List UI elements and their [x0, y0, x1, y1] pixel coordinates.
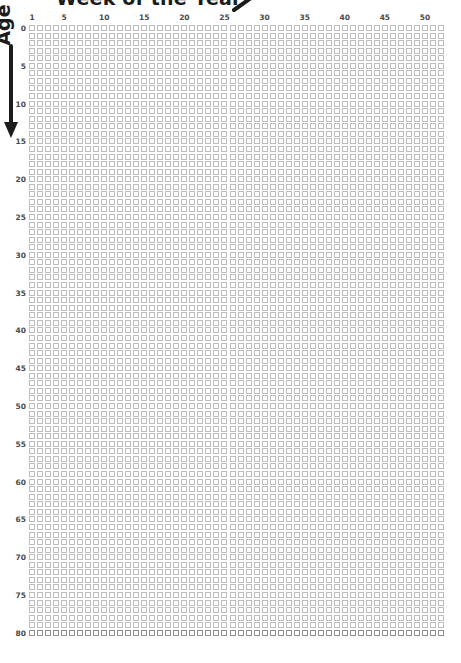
week-cell[interactable] — [77, 403, 83, 409]
week-cell[interactable] — [262, 524, 268, 530]
week-cell[interactable] — [29, 229, 35, 235]
week-cell[interactable] — [85, 532, 91, 538]
week-cell[interactable] — [221, 85, 227, 91]
week-cell[interactable] — [77, 101, 83, 107]
week-cell[interactable] — [221, 433, 227, 439]
week-cell[interactable] — [141, 78, 147, 84]
week-cell[interactable] — [270, 320, 276, 326]
week-cell[interactable] — [430, 501, 436, 507]
week-cell[interactable] — [294, 584, 300, 590]
week-cell[interactable] — [398, 169, 404, 175]
week-cell[interactable] — [53, 335, 59, 341]
week-cell[interactable] — [286, 479, 292, 485]
week-cell[interactable] — [310, 358, 316, 364]
week-cell[interactable] — [157, 85, 163, 91]
week-cell[interactable] — [406, 373, 412, 379]
week-cell[interactable] — [117, 479, 123, 485]
week-cell[interactable] — [342, 305, 348, 311]
week-cell[interactable] — [286, 290, 292, 296]
week-cell[interactable] — [125, 131, 131, 137]
week-cell[interactable] — [93, 123, 99, 129]
week-cell[interactable] — [294, 290, 300, 296]
week-cell[interactable] — [278, 335, 284, 341]
week-cell[interactable] — [238, 380, 244, 386]
week-cell[interactable] — [238, 320, 244, 326]
week-cell[interactable] — [213, 615, 219, 621]
week-cell[interactable] — [238, 131, 244, 137]
week-cell[interactable] — [374, 25, 380, 31]
week-cell[interactable] — [294, 539, 300, 545]
week-cell[interactable] — [398, 93, 404, 99]
week-cell[interactable] — [246, 569, 252, 575]
week-cell[interactable] — [149, 138, 155, 144]
week-cell[interactable] — [390, 101, 396, 107]
week-cell[interactable] — [109, 78, 115, 84]
week-cell[interactable] — [109, 48, 115, 54]
week-cell[interactable] — [334, 131, 340, 137]
week-cell[interactable] — [230, 388, 236, 394]
week-cell[interactable] — [294, 380, 300, 386]
week-cell[interactable] — [326, 479, 332, 485]
week-cell[interactable] — [422, 108, 428, 114]
week-cell[interactable] — [406, 350, 412, 356]
week-cell[interactable] — [398, 463, 404, 469]
week-cell[interactable] — [318, 501, 324, 507]
week-cell[interactable] — [230, 403, 236, 409]
week-cell[interactable] — [422, 229, 428, 235]
week-cell[interactable] — [318, 63, 324, 69]
week-cell[interactable] — [318, 441, 324, 447]
week-cell[interactable] — [254, 78, 260, 84]
week-cell[interactable] — [342, 350, 348, 356]
week-cell[interactable] — [382, 297, 388, 303]
week-cell[interactable] — [278, 501, 284, 507]
week-cell[interactable] — [422, 335, 428, 341]
week-cell[interactable] — [294, 441, 300, 447]
week-cell[interactable] — [53, 274, 59, 280]
week-cell[interactable] — [326, 78, 332, 84]
week-cell[interactable] — [406, 63, 412, 69]
week-cell[interactable] — [390, 320, 396, 326]
week-cell[interactable] — [254, 501, 260, 507]
week-cell[interactable] — [382, 615, 388, 621]
week-cell[interactable] — [197, 471, 203, 477]
week-cell[interactable] — [45, 123, 51, 129]
week-cell[interactable] — [422, 123, 428, 129]
week-cell[interactable] — [262, 297, 268, 303]
week-cell[interactable] — [85, 108, 91, 114]
week-cell[interactable] — [181, 380, 187, 386]
week-cell[interactable] — [286, 350, 292, 356]
week-cell[interactable] — [278, 93, 284, 99]
week-cell[interactable] — [254, 494, 260, 500]
week-cell[interactable] — [61, 55, 67, 61]
week-cell[interactable] — [422, 33, 428, 39]
week-cell[interactable] — [302, 350, 308, 356]
week-cell[interactable] — [181, 70, 187, 76]
week-cell[interactable] — [85, 55, 91, 61]
week-cell[interactable] — [61, 615, 67, 621]
week-cell[interactable] — [117, 380, 123, 386]
week-cell[interactable] — [358, 327, 364, 333]
week-cell[interactable] — [310, 161, 316, 167]
week-cell[interactable] — [69, 584, 75, 590]
week-cell[interactable] — [157, 547, 163, 553]
week-cell[interactable] — [37, 267, 43, 273]
week-cell[interactable] — [173, 494, 179, 500]
week-cell[interactable] — [133, 40, 139, 46]
week-cell[interactable] — [173, 622, 179, 628]
week-cell[interactable] — [197, 199, 203, 205]
week-cell[interactable] — [205, 456, 211, 462]
week-cell[interactable] — [77, 252, 83, 258]
week-cell[interactable] — [45, 327, 51, 333]
week-cell[interactable] — [310, 55, 316, 61]
week-cell[interactable] — [254, 123, 260, 129]
week-cell[interactable] — [238, 244, 244, 250]
week-cell[interactable] — [246, 532, 252, 538]
week-cell[interactable] — [189, 471, 195, 477]
week-cell[interactable] — [181, 229, 187, 235]
week-cell[interactable] — [29, 320, 35, 326]
week-cell[interactable] — [422, 539, 428, 545]
week-cell[interactable] — [45, 622, 51, 628]
week-cell[interactable] — [109, 388, 115, 394]
week-cell[interactable] — [37, 252, 43, 258]
week-cell[interactable] — [133, 380, 139, 386]
